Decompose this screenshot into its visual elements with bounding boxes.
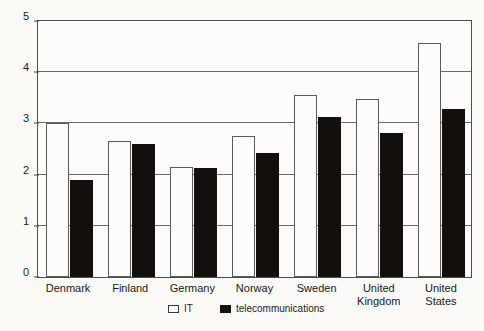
- bar-telecommunications: [70, 180, 93, 277]
- bar-it: [232, 136, 255, 277]
- legend-swatch-telecommunications-icon: [220, 305, 231, 313]
- bar-group: [232, 21, 279, 277]
- y-tick-label-5: 5: [23, 10, 29, 22]
- legend-item-it: IT: [168, 304, 193, 314]
- x-axis-label: Germany: [170, 282, 215, 295]
- bars-layer: [38, 21, 471, 277]
- y-tick-label-3: 3: [23, 112, 29, 124]
- bar-telecommunications: [194, 168, 217, 277]
- bar-chart-figure: 012345 DenmarkFinlandGermanyNorwaySweden…: [0, 0, 484, 331]
- x-axis-labels: DenmarkFinlandGermanyNorwaySwedenUnited …: [37, 282, 472, 320]
- legend-swatch-it-icon: [168, 305, 179, 313]
- bar-it: [46, 123, 69, 277]
- bar-telecommunications: [132, 144, 155, 277]
- plot-area: 012345: [37, 20, 472, 278]
- bar-it: [418, 43, 441, 277]
- x-axis-label: Denmark: [46, 282, 91, 295]
- bar-group: [294, 21, 341, 277]
- legend-item-telecommunications: telecommunications: [220, 304, 324, 314]
- bar-it: [170, 167, 193, 277]
- x-axis-label: Sweden: [297, 282, 337, 295]
- bar-telecommunications: [442, 109, 465, 277]
- bar-group: [108, 21, 155, 277]
- bar-group: [418, 21, 465, 277]
- bar-telecommunications: [318, 117, 341, 277]
- bar-it: [294, 95, 317, 277]
- x-axis-label: Norway: [236, 282, 273, 295]
- x-axis-label: United Kingdom: [357, 282, 400, 308]
- bar-group: [356, 21, 403, 277]
- bar-it: [108, 141, 131, 277]
- bar-telecommunications: [380, 133, 403, 277]
- bar-group: [46, 21, 93, 277]
- chart-legend: IT telecommunications: [168, 304, 324, 314]
- y-tick-label-0: 0: [23, 266, 29, 278]
- y-tick-label-2: 2: [23, 164, 29, 176]
- y-tick-label-1: 1: [23, 215, 29, 227]
- bar-telecommunications: [256, 153, 279, 277]
- x-axis-label: Finland: [112, 282, 148, 295]
- x-axis-label: United States: [425, 282, 457, 308]
- bar-group: [170, 21, 217, 277]
- bar-it: [356, 99, 379, 277]
- legend-label-telecommunications: telecommunications: [236, 304, 324, 314]
- y-tick-label-4: 4: [23, 61, 29, 73]
- legend-label-it: IT: [184, 304, 193, 314]
